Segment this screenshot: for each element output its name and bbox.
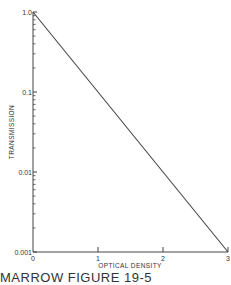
x-tick-label: 3: [226, 255, 230, 262]
figure-caption: MARROW FIGURE 19-5: [0, 270, 152, 285]
y-tick-label: 1.0: [22, 9, 32, 16]
x-tick-label: 2: [161, 255, 165, 262]
series-line-transmission: [33, 12, 228, 252]
series: [33, 12, 228, 252]
x-tick-label: 0: [31, 255, 35, 262]
y-tick-label: 0.001: [14, 249, 32, 256]
y-tick-label: 0.01: [18, 169, 32, 176]
x-tick-label: 1: [96, 255, 100, 262]
tick-labels: 01231.00.10.010.001: [14, 9, 230, 263]
y-axis-title: TRANSMISSION: [8, 105, 15, 159]
x-axis-title: OPTICAL DENSITY: [98, 262, 162, 269]
y-tick-label: 0.1: [22, 89, 32, 96]
